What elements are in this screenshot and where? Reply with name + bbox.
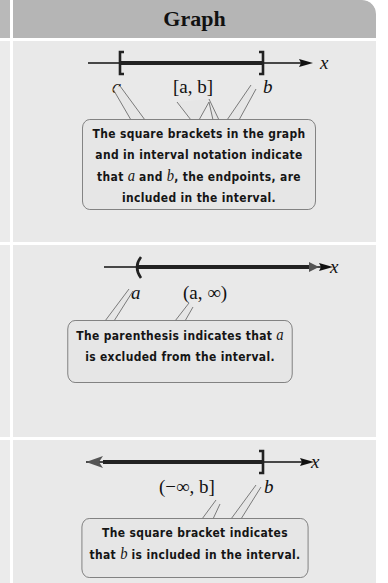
header-title: Graph xyxy=(163,6,225,32)
callout-line: The square bracket indicates xyxy=(82,522,307,543)
callout-closed-ray: The square bracket indicates that b is i… xyxy=(81,518,308,578)
endpoint-label-b: b xyxy=(264,476,274,497)
axis-label-x: x xyxy=(310,451,320,472)
callout-line: The parenthesis indicates that a xyxy=(68,324,292,346)
callout-line: The square brackets in the graph xyxy=(83,123,315,144)
row-open-ray: x a (a, ∞) The parenthesis indicates tha… xyxy=(13,245,376,437)
endpoint-label-b: b xyxy=(263,76,273,97)
callout-line: is excluded from the interval. xyxy=(68,346,292,367)
left-column-header xyxy=(0,0,10,38)
callout-line: that b is included in the interval. xyxy=(82,543,307,565)
callout-open-ray: The parenthesis indicates that a is excl… xyxy=(67,320,292,383)
callout-line: and in interval notation indicate xyxy=(83,144,315,165)
callout-closed-interval: The square brackets in the graph and in … xyxy=(82,119,316,210)
interval-notation: (−∞, b] xyxy=(159,476,215,498)
interval-notation: [a, b] xyxy=(173,76,213,97)
axis-label-x: x xyxy=(329,256,339,277)
callout-line: that a and b, the endpoints, are xyxy=(83,165,315,187)
interval-graph-panel: Graph x a b [a, b] The square brackets i… xyxy=(0,0,376,583)
row-closed-ray: x b (−∞, b] The square bracket indicates… xyxy=(13,440,376,583)
interval-notation: (a, ∞) xyxy=(183,282,227,304)
left-column-strip xyxy=(0,0,10,583)
graph-column-header: Graph xyxy=(13,0,376,38)
row-closed-interval: x a b [a, b] The square brackets in the … xyxy=(13,41,376,242)
callout-line: included in the interval. xyxy=(83,187,315,208)
axis-label-x: x xyxy=(319,52,329,73)
